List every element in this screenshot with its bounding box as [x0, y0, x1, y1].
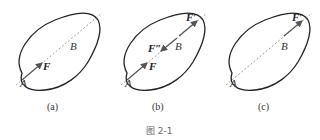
panel-a: F A B (a) — [16, 13, 102, 113]
point-B-label: B — [281, 40, 288, 52]
figure-caption: 图 2-1 — [146, 126, 173, 136]
force-label: F′ — [291, 11, 302, 23]
panel-c: F′ A B (c) — [226, 11, 312, 113]
point-A-label: A — [124, 77, 132, 89]
force-F-prime-arrow — [179, 21, 197, 36]
point-B-label: B — [175, 40, 182, 52]
figure-2-1: F A B (a) F F″ F′ A B (b) F′ A B (c) 图 2… — [0, 0, 320, 140]
panel-label: (c) — [258, 101, 269, 113]
point-A-label: A — [19, 77, 27, 89]
panel-b: F F″ F′ A B (b) — [121, 11, 207, 113]
point-B-label: B — [70, 40, 77, 52]
force-F-prime-arrow — [284, 21, 302, 36]
force-label: F — [42, 60, 51, 72]
point-A-label: A — [229, 77, 237, 89]
force-label: F″ — [147, 42, 161, 54]
panel-label: (a) — [47, 101, 58, 113]
panel-label: (b) — [152, 101, 164, 113]
force-label: F — [148, 60, 157, 72]
force-label: F′ — [185, 11, 196, 23]
